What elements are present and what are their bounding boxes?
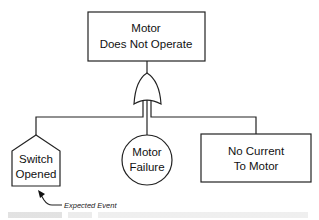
expected-event-label: Expected Event bbox=[64, 201, 117, 210]
basic-event-motor-failure: Motor Failure bbox=[122, 135, 172, 185]
house-event-switch-opened: Switch Opened bbox=[12, 135, 60, 186]
no-current-label-line1: No Current bbox=[228, 145, 285, 157]
top-event-box bbox=[88, 12, 205, 61]
fault-tree-diagram: Motor Does Not Operate Switch Opened Mot… bbox=[0, 0, 319, 220]
expected-event-annotation: Expected Event bbox=[38, 190, 117, 210]
top-event-label-line1: Motor bbox=[131, 22, 161, 34]
figure-caption-illegible bbox=[8, 212, 308, 218]
switch-opened-label-line2: Opened bbox=[16, 168, 57, 180]
intermediate-event-no-current: No Current To Motor bbox=[201, 134, 311, 182]
annotation-arrow-line bbox=[41, 195, 62, 205]
motor-failure-label-line1: Motor bbox=[132, 146, 162, 158]
no-current-label-line2: To Motor bbox=[234, 160, 279, 172]
top-event: Motor Does Not Operate bbox=[88, 12, 205, 61]
motor-failure-label-line2: Failure bbox=[129, 161, 164, 173]
rect-shape bbox=[201, 134, 311, 182]
or-gate-icon bbox=[134, 73, 161, 110]
branch-connectors bbox=[36, 110, 256, 135]
top-event-label-line2: Does Not Operate bbox=[100, 38, 193, 50]
circle-shape bbox=[122, 135, 172, 185]
switch-opened-label-line1: Switch bbox=[19, 153, 53, 165]
